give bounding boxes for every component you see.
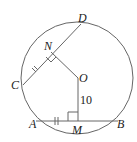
label-d: D: [78, 12, 87, 24]
tick-cn-1: [32, 68, 36, 72]
label-b: B: [117, 118, 124, 130]
label-o: O: [79, 72, 88, 84]
label-om-length: 10: [80, 94, 92, 106]
tick-cn-2: [34, 66, 38, 70]
segment-no: [51, 52, 78, 78]
right-angle-m: [68, 112, 78, 121]
chord-cd: [23, 24, 81, 85]
label-n: N: [44, 40, 52, 52]
label-a: A: [29, 118, 36, 130]
label-m: M: [72, 124, 82, 136]
label-c: C: [11, 79, 19, 91]
